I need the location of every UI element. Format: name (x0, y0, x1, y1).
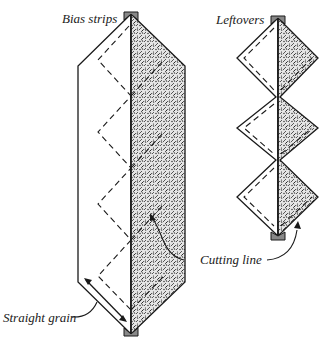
leftovers-printed-half (278, 18, 318, 236)
cutting-line-label: Cutting line (200, 253, 262, 266)
leftovers-figure (237, 16, 318, 260)
straight-grain-label: Straight grain (3, 311, 76, 324)
quilting-diagram: Bias strips Leftovers Cutting line Strai… (0, 0, 324, 344)
bias-strips-printed-half (131, 14, 185, 334)
bias-strips-plain-half (78, 14, 131, 334)
diagram-canvas (0, 0, 324, 344)
leftovers-plain-half (237, 18, 278, 236)
leftovers-label: Leftovers (216, 13, 264, 26)
bias-strips-label: Bias strips (62, 12, 117, 25)
bias-strips-figure (72, 12, 185, 336)
